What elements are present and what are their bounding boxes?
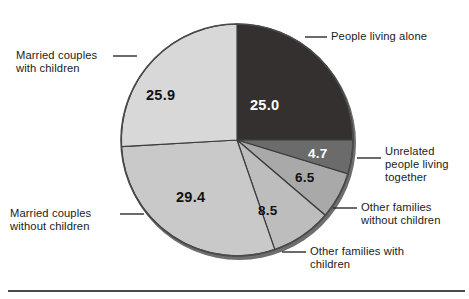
footer-rule [8,290,465,292]
callout-label-married-without-children: Married couples without children [10,207,91,233]
pie-value-other-families-with-children: 8.5 [258,203,278,218]
callout-label-people-living-alone: People living alone [331,30,427,43]
callout-label-other-families-without-children: Other families without children [361,201,441,227]
pie-slice-married-with-children[interactable] [121,24,237,147]
pie-value-people-living-alone: 25.0 [250,97,279,113]
pie-value-unrelated-people: 4.7 [308,146,328,161]
pie-value-married-with-children: 25.9 [146,87,175,103]
callout-label-other-families-with-children: Other families with children [310,245,404,271]
callout-label-unrelated-people: Unrelated people living together [385,145,449,185]
callout-label-married-with-children: Married couples with children [16,49,97,75]
pie-chart-figure: 25.0 4.7 6.5 8.5 29.4 25.9 People living… [0,0,469,299]
pie-value-other-families-without-children: 6.5 [295,170,315,185]
pie-value-married-without-children: 29.4 [176,189,205,205]
